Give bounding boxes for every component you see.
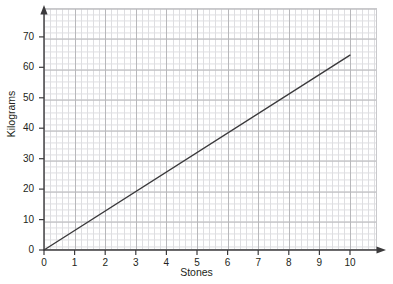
y-axis-ticks — [39, 37, 44, 250]
chart-svg — [0, 0, 393, 284]
y-tick-label-70: 70 — [12, 31, 34, 42]
y-axis-arrowhead-icon — [40, 5, 47, 15]
conversion-line — [44, 55, 350, 250]
y-tick-label-30: 30 — [12, 153, 34, 164]
data-series-conversion-line — [44, 55, 350, 250]
y-tick-label-60: 60 — [12, 61, 34, 72]
x-axis-title: Stones — [0, 266, 393, 278]
x-axis — [44, 246, 386, 253]
x-axis-ticks — [44, 250, 350, 255]
x-axis-arrowhead-icon — [377, 246, 387, 253]
y-tick-label-10: 10 — [12, 214, 34, 225]
y-axis — [40, 5, 47, 250]
y-tick-label-0: 0 — [12, 244, 34, 255]
y-axis-title: Kilograms — [5, 79, 17, 149]
y-tick-label-20: 20 — [12, 183, 34, 194]
conversion-graph: 0 10 20 30 40 50 60 70 0 1 2 3 4 5 6 7 8… — [0, 0, 393, 284]
